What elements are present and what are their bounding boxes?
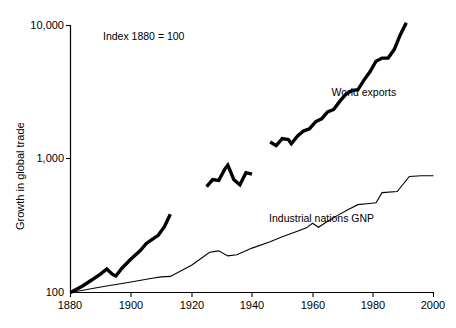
x-tick-label-1880: 1880 <box>58 299 82 311</box>
y-tick-label-1000: 1,000 <box>36 152 64 164</box>
x-tick-label-1960: 1960 <box>301 299 325 311</box>
y-axis-title: Growth in global trade <box>14 122 26 230</box>
series-label-world-exports: World exports <box>332 86 397 98</box>
x-tick-label-2000: 2000 <box>421 299 445 311</box>
series-path-industrial-nations-gnp-seg0 <box>71 176 434 293</box>
x-tick-label-1980: 1980 <box>361 299 385 311</box>
y-tick-label-10000: 10,000 <box>30 19 64 31</box>
index-annotation: Index 1880 = 100 <box>103 30 185 42</box>
series-path-world-exports-seg1 <box>207 165 252 187</box>
y-tick-label-100: 100 <box>46 286 64 298</box>
x-tick-label-1920: 1920 <box>180 299 204 311</box>
series-path-world-exports-seg2 <box>270 23 406 146</box>
series-path-world-exports-seg0 <box>71 214 171 292</box>
series-layer <box>71 23 434 293</box>
x-tick-label-1900: 1900 <box>119 299 143 311</box>
trade-growth-log-chart: Growth in global trade 10,000 1,000 100 … <box>0 0 456 328</box>
series-label-industrial-nations-gnp: Industrial nations GNP <box>269 212 374 224</box>
chart-container: Growth in global trade 10,000 1,000 100 … <box>0 0 456 328</box>
x-tick-label-1940: 1940 <box>240 299 264 311</box>
